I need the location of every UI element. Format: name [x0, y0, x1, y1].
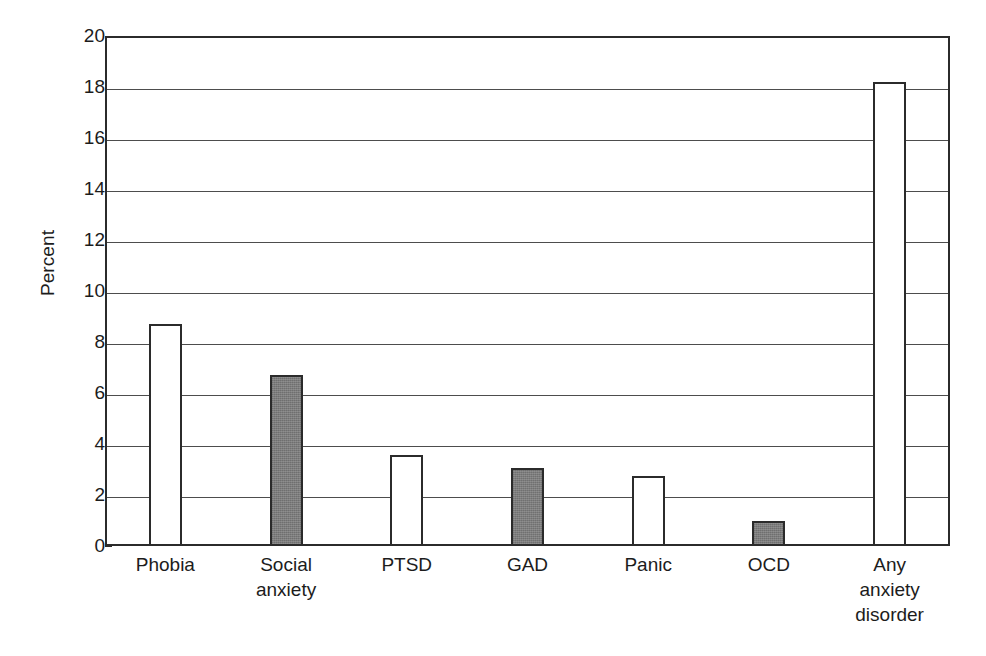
x-label-line: disorder [829, 602, 950, 627]
gridline [107, 293, 948, 294]
x-axis-label-any-anxiety-disorder: Anyanxietydisorder [829, 552, 950, 627]
x-axis-label-panic: Panic [588, 552, 709, 577]
x-axis-label-ptsd: PTSD [346, 552, 467, 577]
bar-chart: Percent 02468101214161820 PhobiaSocialan… [0, 0, 986, 656]
bar-any-anxiety-disorder[interactable] [873, 82, 906, 546]
y-tick-label: 4 [63, 434, 105, 453]
bar-social-anxiety[interactable] [270, 375, 303, 546]
gridline [107, 344, 948, 345]
x-label-line: PTSD [346, 552, 467, 577]
y-tick-label: 2 [63, 485, 105, 504]
y-tick-label: 16 [63, 128, 105, 147]
y-tick-label: 20 [63, 26, 105, 45]
y-tick-label: 18 [63, 77, 105, 96]
x-axis-label-ocd: OCD [709, 552, 830, 577]
gridline [107, 89, 948, 90]
y-tick-mark [105, 546, 112, 547]
y-tick-label: 8 [63, 332, 105, 351]
x-axis-label-phobia: Phobia [105, 552, 226, 577]
gridline [107, 395, 948, 396]
y-tick-label: 0 [63, 536, 105, 555]
x-axis-label-social-anxiety: Socialanxiety [226, 552, 347, 602]
bar-panic[interactable] [632, 476, 665, 546]
x-label-line: Phobia [105, 552, 226, 577]
x-label-line: anxiety [829, 577, 950, 602]
y-tick-label: 10 [63, 281, 105, 300]
bar-ptsd[interactable] [390, 455, 423, 546]
gridline [107, 242, 948, 243]
bar-phobia[interactable] [149, 324, 182, 546]
y-tick-label: 6 [63, 383, 105, 402]
x-axis-labels: PhobiaSocialanxietyPTSDGADPanicOCDAnyanx… [105, 552, 950, 652]
x-label-line: Panic [588, 552, 709, 577]
x-label-line: Social [226, 552, 347, 577]
gridline [107, 446, 948, 447]
y-tick-label: 12 [63, 230, 105, 249]
x-axis-label-gad: GAD [467, 552, 588, 577]
bar-gad[interactable] [511, 468, 544, 546]
x-label-line: GAD [467, 552, 588, 577]
x-label-line: OCD [709, 552, 830, 577]
x-label-line: Any [829, 552, 950, 577]
bar-ocd[interactable] [752, 521, 785, 547]
x-label-line: anxiety [226, 577, 347, 602]
y-tick-label: 14 [63, 179, 105, 198]
y-axis-ticks: 02468101214161820 [48, 36, 105, 546]
gridline [107, 140, 948, 141]
gridline [107, 191, 948, 192]
